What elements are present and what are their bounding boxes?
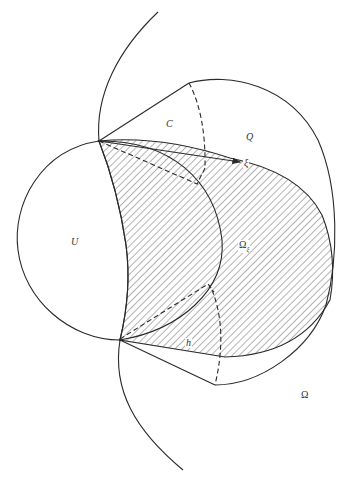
omega-xi-hatched-region xyxy=(99,140,333,357)
vertex-top xyxy=(98,140,101,143)
ball-u-boundary xyxy=(17,141,120,340)
label-omega-xi-sub: ξ xyxy=(246,245,249,253)
label-ball-u: U xyxy=(70,237,79,247)
label-domain-omega: Ω xyxy=(300,390,309,400)
label-height-h: h xyxy=(185,338,192,348)
label-region-q: Q xyxy=(245,132,254,142)
diagram-canvas xyxy=(0,0,343,488)
vertex-bottom xyxy=(119,339,122,342)
label-omega-xi: Ωξ xyxy=(238,240,250,253)
domain-boundary-bottom xyxy=(118,340,183,470)
cone-c-edge xyxy=(99,83,189,141)
label-cone-c: C xyxy=(165,119,174,129)
label-xi-vector: ξ xyxy=(243,158,249,168)
